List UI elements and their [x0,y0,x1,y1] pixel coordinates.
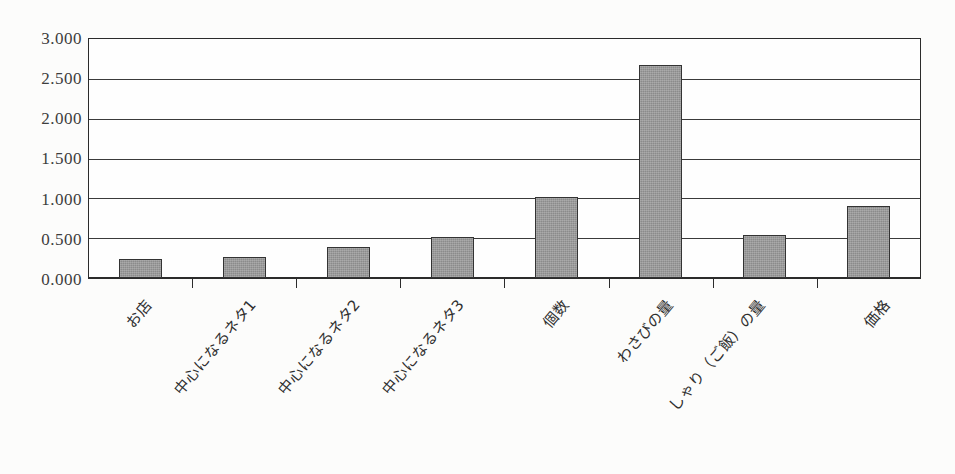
y-axis-tick-label: 0.500 [0,230,82,250]
x-axis-tick [713,279,714,288]
gridline-1000 [89,198,920,199]
x-axis-tick [400,279,401,288]
y-axis-tick-label: 1.000 [0,190,82,210]
bar-5[interactable] [639,65,682,278]
chart-page: 3.000 2.500 2.000 1.500 1.000 0.500 0.00… [0,0,955,474]
bar-0[interactable] [119,259,162,278]
bar-6[interactable] [743,235,786,278]
bar-3[interactable] [431,237,474,278]
plot-area [88,38,921,279]
x-axis-tick [192,279,193,288]
y-axis-tick-label: 2.000 [0,109,82,129]
gridline-2000 [89,119,920,120]
gridline-1500 [89,159,920,160]
bar-1[interactable] [223,257,266,278]
y-axis-tick-label: 0.000 [0,270,82,290]
y-axis-tick-label: 2.500 [0,69,82,89]
x-axis-tick [296,279,297,288]
gridline-2500 [89,79,920,80]
x-axis-baseline [89,277,920,278]
y-axis-tick-label: 1.500 [0,149,82,169]
x-axis-tick [817,279,818,288]
x-axis-tick [609,279,610,288]
bar-4[interactable] [535,197,578,278]
x-axis-category-label-7: 価格 [749,294,894,461]
bar-2[interactable] [327,247,370,278]
y-axis-tick-label: 3.000 [0,29,82,49]
gridline-0500 [89,238,920,239]
x-axis-tick [504,279,505,288]
bar-7[interactable] [847,206,890,278]
